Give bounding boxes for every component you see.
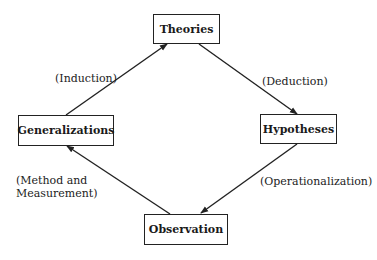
node-hypotheses: Hypotheses — [260, 114, 337, 144]
node-theories: Theories — [153, 14, 220, 44]
node-theories-label: Theories — [160, 23, 214, 36]
label-method-measurement: (Method and Measurement) — [16, 174, 98, 200]
node-observation-label: Observation — [149, 223, 223, 236]
label-method-line2: Measurement) — [16, 187, 98, 200]
node-generalizations: Generalizations — [18, 115, 114, 146]
label-induction: (Induction) — [55, 72, 117, 85]
node-observation: Observation — [144, 214, 228, 245]
node-hypotheses-label: Hypotheses — [263, 123, 334, 136]
label-method-line1: (Method and — [16, 174, 98, 187]
label-deduction: (Deduction) — [262, 75, 328, 88]
label-operationalization: (Operationalization) — [260, 175, 372, 188]
node-generalizations-label: Generalizations — [18, 124, 115, 137]
